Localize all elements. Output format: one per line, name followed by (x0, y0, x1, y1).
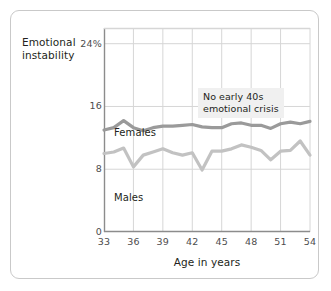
vertical-gridlines (133, 28, 310, 232)
x-axis-title: Age in years (104, 256, 310, 268)
x-tick-label: 54 (295, 236, 325, 247)
x-tick-label: 39 (148, 236, 178, 247)
y-tick-label: 16 (62, 100, 102, 111)
x-tick-label: 45 (207, 236, 237, 247)
y-tick-label: 24% (62, 38, 102, 49)
chart-annotation: No early 40s emotional crisis (198, 88, 284, 118)
x-tick-label: 48 (236, 236, 266, 247)
series-line-males (104, 141, 310, 170)
series-label-males: Males (114, 192, 143, 203)
chart-figure: Emotional instability 081624% 3336394245… (0, 0, 331, 291)
x-tick-label: 36 (118, 236, 148, 247)
y-tick-label: 8 (62, 163, 102, 174)
x-tick-label: 42 (177, 236, 207, 247)
x-tick-label: 33 (89, 236, 119, 247)
y-axis-tick-labels: 081624% (58, 0, 102, 291)
x-tick-label: 51 (266, 236, 296, 247)
series-label-females: Females (114, 127, 156, 138)
x-axis-tick-labels: 3336394245485154 (104, 236, 310, 252)
